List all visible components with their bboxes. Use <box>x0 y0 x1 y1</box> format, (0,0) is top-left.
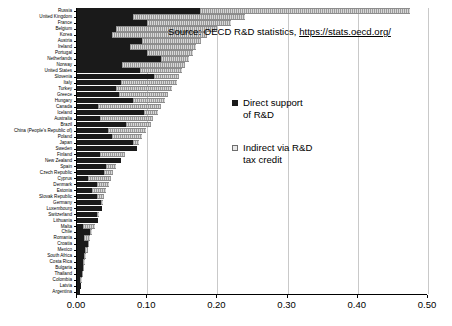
category-label: Chile <box>0 229 72 234</box>
bar-row <box>77 80 177 85</box>
category-label: Argentina <box>0 289 72 294</box>
legend-swatch-indirect-icon <box>232 145 238 151</box>
category-label: Korea <box>0 32 72 37</box>
bar-segment-indirect <box>133 140 139 145</box>
legend-entry-indirect: Indirect via R&D tax credit <box>232 142 312 165</box>
bar-segment-direct <box>77 182 97 187</box>
category-tick <box>74 166 76 167</box>
x-axis-tick-label: 0.10 <box>137 299 156 310</box>
bar-row <box>77 253 86 258</box>
category-tick <box>74 292 76 293</box>
bar-segment-direct <box>77 140 133 145</box>
legend-label-indirect: Indirect via R&D tax credit <box>243 142 312 165</box>
category-label: Netherlands <box>0 56 72 61</box>
bar-segment-direct <box>77 241 88 246</box>
bar-segment-indirect <box>82 271 83 276</box>
category-label: China (People's Republic of) <box>0 128 72 133</box>
gridline <box>217 8 218 294</box>
category-tick <box>74 77 76 78</box>
bar-segment-direct <box>77 247 85 252</box>
category-label: Costa Rica <box>0 259 72 264</box>
bar-segment-indirect <box>80 277 82 282</box>
category-label: Canada <box>0 104 72 109</box>
category-tick <box>74 29 76 30</box>
bar-segment-indirect <box>154 74 179 79</box>
category-tick <box>74 65 76 66</box>
bar-segment-indirect <box>101 200 103 205</box>
x-axis-tick <box>146 295 147 298</box>
category-label: Ireland <box>0 44 72 49</box>
bar-segment-direct <box>77 110 144 115</box>
category-label: Portugal <box>0 50 72 55</box>
category-tick <box>74 184 76 185</box>
bar-row <box>77 104 161 109</box>
source-note-prefix: Source: OECD R&D statistics, <box>168 26 299 37</box>
bar-segment-indirect <box>84 253 86 258</box>
category-label: Colombia <box>0 277 72 282</box>
category-label: Estonia <box>0 188 72 193</box>
x-axis-tick-label: 0.30 <box>277 299 296 310</box>
category-tick <box>74 35 76 36</box>
legend-swatch-direct-icon <box>232 100 238 106</box>
category-tick <box>74 11 76 12</box>
bar-segment-indirect <box>104 170 114 175</box>
bar-row <box>77 259 85 264</box>
bar-segment-direct <box>77 62 122 67</box>
category-tick <box>74 119 76 120</box>
chart-legend: Direct support of R&D Indirect via R&D t… <box>232 97 312 187</box>
bar-segment-indirect <box>112 134 142 139</box>
bar-segment-indirect <box>98 104 161 109</box>
bar-segment-indirect <box>200 8 411 13</box>
bar-row <box>77 8 410 13</box>
bar-segment-direct <box>77 194 97 199</box>
category-tick <box>74 101 76 102</box>
bar-row <box>77 146 137 151</box>
bar-row <box>77 164 116 169</box>
gridline <box>358 8 359 294</box>
bar-segment-direct <box>77 92 119 97</box>
category-tick <box>74 226 76 227</box>
x-axis-tick <box>76 295 77 298</box>
bar-segment-direct <box>77 50 147 55</box>
bar-segment-indirect <box>147 50 193 55</box>
bar-segment-indirect <box>122 62 185 67</box>
bar-segment-direct <box>77 98 133 103</box>
category-label: Czech Republic <box>0 170 72 175</box>
category-tick <box>74 286 76 287</box>
category-label: Slovenia <box>0 74 72 79</box>
category-label: Finland <box>0 152 72 157</box>
bar-row <box>77 62 185 67</box>
category-label: South Africa <box>0 253 72 258</box>
bar-segment-direct <box>77 44 130 49</box>
category-label: Greece <box>0 92 72 97</box>
category-label: Poland <box>0 134 72 139</box>
bar-segment-direct <box>77 188 92 193</box>
bar-segment-indirect <box>119 92 168 97</box>
source-url-link[interactable]: https://stats.oecd.org/ <box>299 26 391 37</box>
bar-segment-indirect <box>97 194 104 199</box>
category-tick <box>74 17 76 18</box>
bar-segment-direct <box>77 170 104 175</box>
category-label: New Zealand <box>0 158 72 163</box>
bar-row <box>77 152 125 157</box>
bar-segment-indirect <box>161 56 189 61</box>
category-tick <box>74 125 76 126</box>
bar-row <box>77 182 109 187</box>
category-tick <box>74 149 76 150</box>
category-tick <box>74 89 76 90</box>
category-tick <box>74 107 76 108</box>
bar-segment-direct <box>77 116 100 121</box>
category-label: France <box>0 20 72 25</box>
bar-segment-direct <box>77 20 147 25</box>
category-label: Luxembourg <box>0 206 72 211</box>
category-tick <box>74 131 76 132</box>
bar-segment-indirect <box>140 68 182 73</box>
category-label: Bulgaria <box>0 265 72 270</box>
bar-row <box>77 68 182 73</box>
bar-row <box>77 14 245 19</box>
x-axis-tick <box>216 295 217 298</box>
bar-row <box>77 277 82 282</box>
category-tick <box>74 178 76 179</box>
bar-row <box>77 271 83 276</box>
bar-segment-direct <box>77 200 101 205</box>
